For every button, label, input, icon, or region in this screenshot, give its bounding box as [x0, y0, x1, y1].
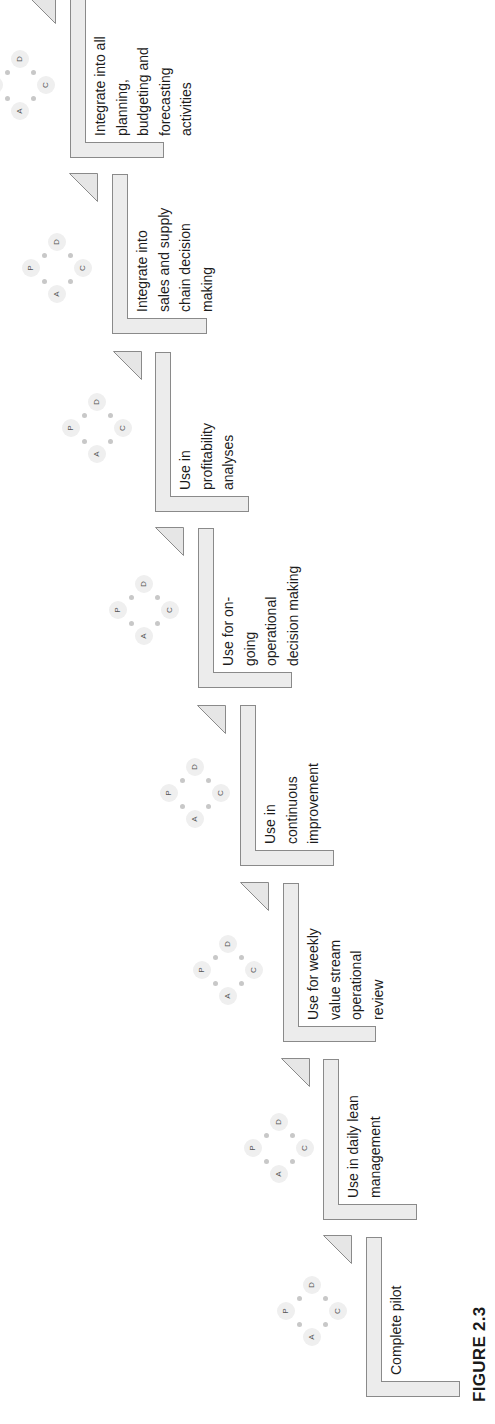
pdca-node-plan: P: [0, 76, 3, 94]
pdca-connector-dot: [297, 1296, 302, 1301]
pdca-connector-dot: [155, 621, 160, 626]
pdca-connector-dot: [290, 1159, 295, 1164]
pdca-node-act: A: [219, 987, 237, 1005]
bracket-seam: [199, 671, 213, 674]
step-triangle-icon: [281, 1058, 310, 1087]
step-label-line: improvement: [303, 763, 325, 844]
step-bracket-horizontal: [70, 142, 164, 158]
pdca-connector-dot: [31, 96, 36, 101]
step-label: Use incontinuousimprovement: [260, 763, 325, 844]
bracket-seam: [284, 1025, 298, 1028]
step-bracket-vertical: [283, 883, 299, 1027]
pdca-node-check: C: [74, 259, 92, 277]
step-label-line: sales and supply: [154, 208, 176, 312]
step-label: Complete pilot: [386, 1286, 408, 1376]
pdca-connector-dot: [264, 1159, 269, 1164]
pdca-node-do: D: [48, 233, 66, 251]
pdca-node-check: C: [37, 76, 55, 94]
step-triangle-icon: [69, 173, 98, 202]
pdca-node-check: C: [161, 601, 179, 619]
step-triangle-icon: [240, 882, 269, 911]
step-label-line: Use for weekly: [303, 928, 325, 1020]
pdca-connector-dot: [82, 413, 87, 418]
figure-caption: FIGURE 2.3: [470, 1306, 490, 1402]
step-label-line: operational: [261, 566, 283, 666]
step-label-line: chain decision: [175, 208, 197, 312]
step-label: Integrate into allplanning,budgeting and…: [90, 36, 198, 136]
step-label-line: planning,: [112, 36, 134, 136]
step-label: Use inprofitabilityanalyses: [175, 423, 240, 490]
pdca-connector-dot: [82, 439, 87, 444]
pdca-connector-dot: [68, 253, 73, 258]
pdca-connector-dot: [180, 778, 185, 783]
pdca-node-plan: P: [109, 601, 127, 619]
step-label-line: Integrate into all: [90, 36, 112, 136]
step-bracket-horizontal: [155, 496, 249, 512]
step-label-line: decision making: [283, 566, 305, 666]
pdca-node-plan: P: [193, 961, 211, 979]
pdca-node-do: D: [270, 1113, 288, 1131]
pdca-connector-dot: [5, 96, 10, 101]
bracket-seam: [324, 1203, 338, 1206]
pdca-connector-dot: [213, 981, 218, 986]
step-bracket-horizontal: [283, 1026, 376, 1042]
pdca-connector-dot: [108, 439, 113, 444]
pdca-connector-dot: [129, 595, 134, 600]
step-triangle-icon: [113, 351, 142, 380]
bracket-seam: [71, 141, 85, 144]
pdca-node-plan: P: [62, 419, 80, 437]
pdca-connector-dot: [42, 279, 47, 284]
pdca-connector-dot: [129, 621, 134, 626]
step-label-line: Use for on-: [218, 566, 240, 666]
pdca-connector-dot: [264, 1133, 269, 1138]
pdca-node-do: D: [186, 758, 204, 776]
bracket-seam: [241, 849, 255, 852]
pdca-node-plan: P: [160, 784, 178, 802]
step-label-line: Use in daily lean: [343, 1095, 365, 1198]
pdca-node-do: D: [135, 575, 153, 593]
step-label: Use in daily leanmanagement: [343, 1095, 386, 1198]
pdca-node-act: A: [270, 1165, 288, 1183]
step-label-line: operational: [346, 928, 368, 1020]
pdca-node-check: C: [114, 419, 132, 437]
pdca-node-act: A: [303, 1328, 321, 1346]
pdca-node-do: D: [11, 50, 29, 68]
step-bracket-vertical: [323, 1059, 339, 1205]
pdca-connector-dot: [155, 595, 160, 600]
step-label-line: forecasting: [155, 36, 177, 136]
step-bracket-vertical: [198, 528, 214, 673]
step-label-line: activities: [176, 36, 198, 136]
step-label-line: going: [240, 566, 262, 666]
pdca-connector-dot: [213, 955, 218, 960]
step-bracket-horizontal: [198, 672, 292, 688]
step-label: Integrate intosales and supplychain deci…: [132, 208, 218, 312]
step-label-line: analyses: [218, 423, 240, 490]
pdca-connector-dot: [108, 413, 113, 418]
pdca-connector-dot: [42, 253, 47, 258]
pdca-connector-dot: [180, 804, 185, 809]
step-label-line: Integrate into: [132, 208, 154, 312]
step-bracket-horizontal: [366, 1381, 460, 1397]
pdca-node-check: C: [245, 961, 263, 979]
step-bracket-vertical: [240, 705, 256, 851]
staircase-diagram: Complete pilotPDCAUse in daily leanmanag…: [0, 0, 495, 1424]
step-label-line: value stream: [325, 928, 347, 1020]
step-label-line: budgeting and: [133, 36, 155, 136]
pdca-node-plan: P: [277, 1302, 295, 1320]
pdca-connector-dot: [290, 1133, 295, 1138]
bracket-seam: [156, 495, 170, 498]
pdca-node-act: A: [186, 810, 204, 828]
step-bracket-horizontal: [240, 850, 334, 866]
pdca-node-act: A: [11, 102, 29, 120]
pdca-node-plan: P: [244, 1139, 262, 1157]
step-label-line: review: [368, 928, 390, 1020]
step-label-line: profitability: [197, 423, 219, 490]
pdca-node-check: C: [212, 784, 230, 802]
step-bracket-horizontal: [323, 1204, 417, 1220]
pdca-connector-dot: [68, 279, 73, 284]
pdca-node-do: D: [88, 393, 106, 411]
pdca-connector-dot: [239, 955, 244, 960]
pdca-connector-dot: [31, 70, 36, 75]
pdca-connector-dot: [206, 778, 211, 783]
step-label: Use for weeklyvalue streamoperationalrev…: [303, 928, 389, 1020]
